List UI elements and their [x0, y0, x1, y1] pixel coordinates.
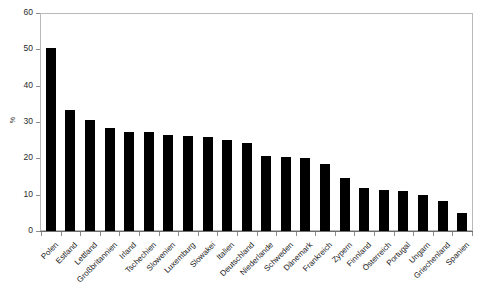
x-axis-tick-labels: PolenEstlandLettlandGroßbritannienIrland… [0, 0, 486, 307]
bar-chart: % 6050403020100 PolenEstlandLettlandGroß… [0, 0, 486, 307]
